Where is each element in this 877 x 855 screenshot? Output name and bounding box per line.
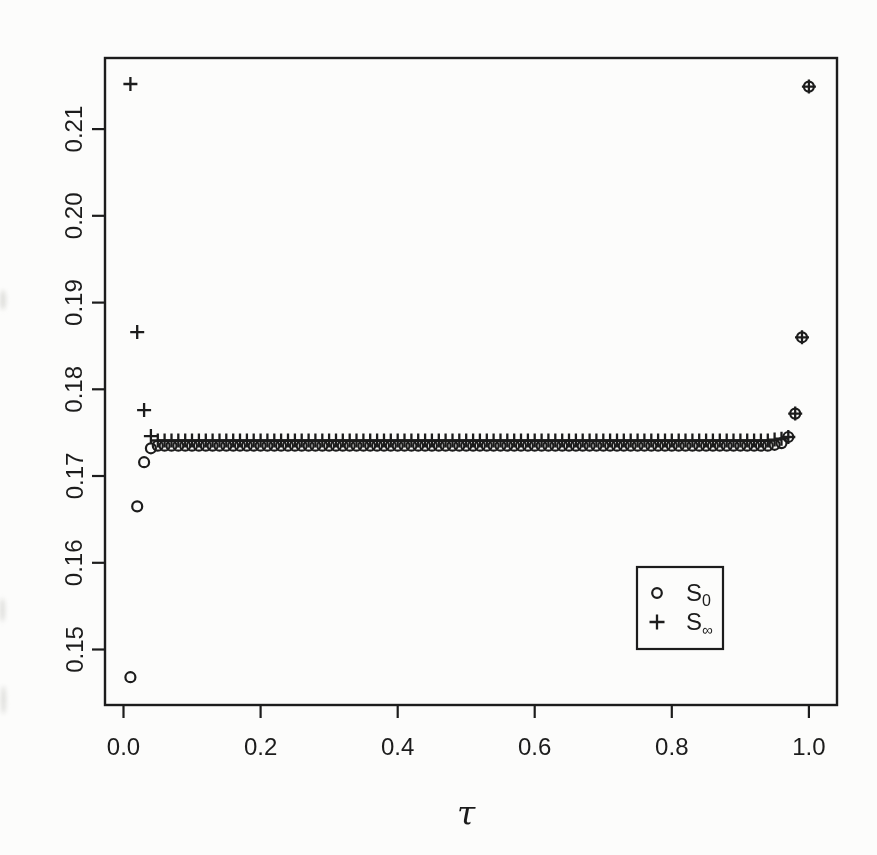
x-tick-label: 0.0 <box>107 733 140 760</box>
x-axis-label: τ <box>457 794 476 833</box>
data-point-plus <box>130 325 144 339</box>
plot-border <box>105 58 837 705</box>
y-tick-label: 0.17 <box>61 453 88 500</box>
data-point-plus <box>795 330 809 344</box>
y-tick-label: 0.20 <box>61 192 88 239</box>
data-point-circle <box>132 501 142 511</box>
y-tick-label: 0.18 <box>61 366 88 413</box>
data-point-plus <box>802 80 816 94</box>
data-point-circle <box>139 457 149 467</box>
x-tick-label: 0.4 <box>381 733 414 760</box>
x-tick-label: 1.0 <box>792 733 825 760</box>
chart-svg: 0.00.20.40.60.81.00.150.160.170.180.190.… <box>0 0 877 855</box>
x-tick-label: 0.8 <box>655 733 688 760</box>
y-tick-label: 0.21 <box>61 106 88 153</box>
data-point-plus <box>788 407 802 421</box>
x-tick-label: 0.6 <box>518 733 551 760</box>
y-tick-label: 0.15 <box>61 626 88 673</box>
data-point-circle <box>125 672 135 682</box>
data-point-plus <box>781 430 795 444</box>
y-tick-label: 0.19 <box>61 279 88 326</box>
data-point-plus <box>137 403 151 417</box>
scan-smudge <box>0 290 6 310</box>
scan-smudge <box>1 686 6 714</box>
figure-page: 0.00.20.40.60.81.00.150.160.170.180.190.… <box>0 0 877 855</box>
y-tick-label: 0.16 <box>61 539 88 586</box>
scan-smudge <box>0 598 5 622</box>
x-tick-label: 0.2 <box>244 733 277 760</box>
series-Sinf <box>123 77 816 448</box>
data-point-plus <box>123 77 137 91</box>
legend: S0S∞ <box>637 567 723 649</box>
